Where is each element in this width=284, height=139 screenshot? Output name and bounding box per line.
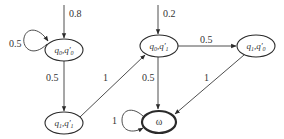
self-loop-prob-omega: 1 bbox=[112, 115, 117, 126]
initial-prob-q0q0: 0.8 bbox=[69, 8, 82, 19]
omega-label: ω bbox=[156, 116, 163, 127]
edge-prob-q0q0-q1q1: 0.5 bbox=[46, 72, 59, 83]
state-q1-q0prime: q1,q′0 bbox=[237, 35, 275, 57]
edge-prob-q1q1-q0q1: 1 bbox=[103, 72, 108, 83]
state-omega: ω bbox=[142, 111, 176, 133]
state-q0-q1prime: q0,q′1 bbox=[140, 35, 178, 57]
edge-prob-q1q0-omega: 1 bbox=[204, 72, 209, 83]
state-q0-q0prime: q0,q′0 bbox=[45, 39, 83, 61]
state-q1-q1prime: q1,q′1 bbox=[45, 112, 83, 134]
edge-q1q0-omega bbox=[175, 55, 244, 114]
self-loop-q0q0 bbox=[24, 30, 48, 51]
initial-prob-q0q1: 0.2 bbox=[163, 8, 176, 19]
state-diagram: 0.8 0.2 0.5 0.5 1 0.5 0.5 1 1 q0,q′0 q1,… bbox=[0, 0, 284, 139]
edge-prob-q0q1-q1q0: 0.5 bbox=[200, 34, 213, 45]
self-loop-prob-q0q0: 0.5 bbox=[9, 38, 22, 49]
edge-q1q1-q0q1 bbox=[80, 55, 145, 117]
edge-prob-q0q1-omega: 0.5 bbox=[142, 72, 155, 83]
self-loop-omega bbox=[122, 110, 143, 131]
